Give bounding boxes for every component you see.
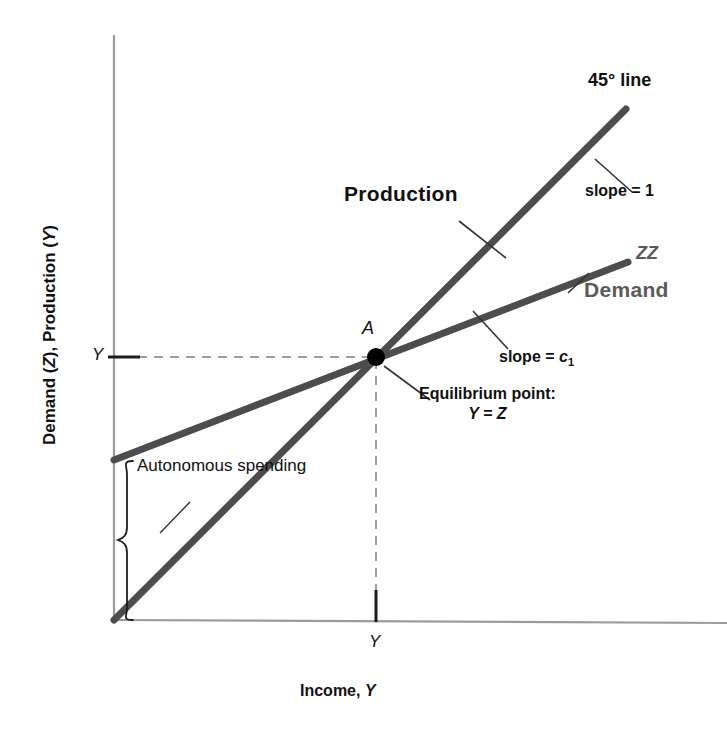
- production-label: Production: [344, 182, 458, 206]
- equilibrium-output-chart: Demand (Z), Production (Y) Income, Y Y Y…: [0, 0, 727, 732]
- slope-c1-prefix: slope =: [499, 348, 559, 365]
- leader-line-autonomous: [160, 502, 190, 533]
- y-axis-title: Demand (Z), Production (Y): [40, 175, 60, 495]
- equilibrium-annotation: Equilibrium point: Y = Z: [419, 385, 556, 424]
- equilibrium-annotation-line1: Equilibrium point:: [419, 385, 556, 402]
- slope-one-label: slope = 1: [585, 182, 654, 200]
- forty-five-degree-line-label: 45° line: [588, 70, 651, 91]
- slope-c1-variable: c: [559, 348, 568, 365]
- chart-canvas: [0, 0, 727, 732]
- equilibrium-point-marker: [367, 348, 385, 366]
- x-axis-line: [114, 620, 727, 623]
- y-axis-tick-label: Y: [92, 345, 103, 365]
- slope-c1-label: slope = c1: [499, 348, 574, 369]
- x-axis-title: Income, Y: [300, 682, 376, 700]
- equilibrium-annotation-line2: Y = Z: [419, 403, 556, 423]
- x-axis-tick-label: Y: [369, 632, 380, 652]
- autonomous-spending-label: Autonomous spending: [137, 455, 267, 478]
- autonomous-spending-brace: [118, 461, 133, 620]
- equilibrium-point-label: A: [362, 318, 374, 339]
- x-axis-title-text: Income, Y: [300, 682, 376, 699]
- zz-curve-label: ZZ: [636, 243, 658, 264]
- y-axis-title-text: Demand (Z), Production (Y): [40, 225, 59, 445]
- slope-c1-subscript: 1: [568, 356, 574, 368]
- demand-label: Demand: [584, 278, 669, 302]
